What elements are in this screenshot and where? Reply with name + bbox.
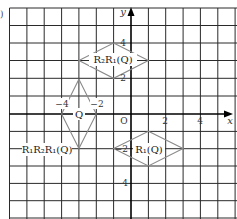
label-r1-q: R₁(Q)	[135, 144, 163, 155]
x-tick-neg4: −4	[55, 99, 69, 109]
coordinate-grid-diagram: R₂R₁(Q) Q R₁(Q) R₁R₂R₁(Q) −4 −2 2 4 O 4 …	[0, 0, 237, 219]
label-r2r1-q: R₂R₁(Q)	[93, 54, 132, 65]
x-axis-label: x	[227, 115, 233, 126]
label-q: Q	[75, 109, 83, 120]
y-tick-neg4: −4	[115, 178, 129, 188]
y-tick-4: 4	[120, 38, 126, 48]
x-tick-4: 4	[197, 116, 203, 126]
label-r1r2r1-q: R₁R₂R₁(Q)	[22, 144, 73, 155]
x-tick-neg2: −2	[90, 99, 103, 109]
origin-label: O	[120, 116, 127, 126]
part-label: )	[0, 9, 4, 19]
y-tick-2: 2	[120, 73, 126, 83]
y-axis-label: y	[119, 6, 126, 17]
x-tick-2: 2	[162, 116, 168, 126]
y-tick-neg2: −2	[115, 144, 128, 154]
